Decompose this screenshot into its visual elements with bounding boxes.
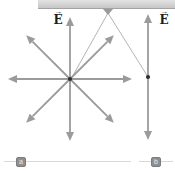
e-field-symbol: E [50, 14, 66, 26]
e-field-label-right: → E [156, 9, 172, 26]
e-field-label-left: → E [50, 9, 66, 26]
panel-label-b: b [151, 157, 161, 167]
panel-label-a: a [16, 157, 26, 167]
field-diagram [0, 0, 175, 173]
figure-canvas: → E → E a b [0, 0, 175, 173]
e-field-symbol: E [156, 14, 172, 26]
